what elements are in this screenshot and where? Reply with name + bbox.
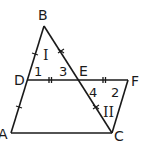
label-d: D [14,72,25,88]
label-f: F [131,73,139,89]
label-c: C [114,128,124,144]
region-ii: II [103,104,114,120]
angle-1: 1 [34,64,42,79]
label-a: A [0,126,8,142]
angle-4: 4 [89,85,97,100]
label-b: B [38,7,48,23]
label-e: E [79,63,88,79]
geometry-diagram: B D E F A C 1 3 4 2 I II [0,0,142,144]
angle-3: 3 [59,64,67,79]
angle-2: 2 [111,85,119,100]
region-i: I [43,47,49,63]
